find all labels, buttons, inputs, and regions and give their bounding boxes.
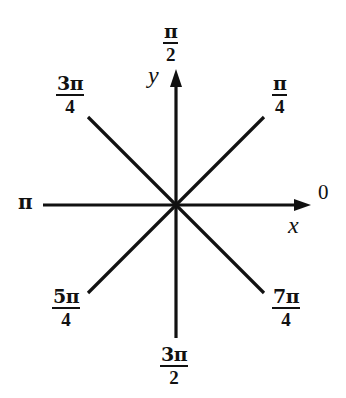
ray-pi-over-four bbox=[176, 117, 264, 205]
fraction-pi-over-two: π 2 bbox=[163, 22, 178, 64]
angle-label-pi: π bbox=[18, 192, 33, 212]
fraction-numerator: π bbox=[272, 74, 287, 96]
fraction-numerator: 3π bbox=[160, 345, 188, 367]
x-axis-arrowhead bbox=[294, 199, 311, 211]
y-axis-label: y bbox=[148, 63, 159, 87]
angle-label-pi-over-two: π 2 bbox=[163, 22, 178, 64]
fraction-denominator: 4 bbox=[65, 96, 75, 116]
fraction-numerator: π bbox=[163, 22, 178, 44]
fraction-five-pi-over-four: 5π 4 bbox=[52, 287, 80, 329]
angle-label-three-pi-over-four: 3π 4 bbox=[56, 74, 84, 116]
angle-label-zero: 0 bbox=[318, 182, 329, 203]
ray-five-pi-over-four bbox=[88, 205, 176, 293]
x-axis-label: x bbox=[288, 213, 299, 237]
fraction-three-pi-over-two: 3π 2 bbox=[160, 345, 188, 387]
fraction-seven-pi-over-four: 7π 4 bbox=[272, 287, 300, 329]
angle-label-five-pi-over-four: 5π 4 bbox=[52, 287, 80, 329]
y-axis-arrowhead bbox=[170, 69, 182, 87]
fraction-denominator: 4 bbox=[275, 96, 285, 116]
angle-label-three-pi-over-two: 3π 2 bbox=[160, 345, 188, 387]
fraction-numerator: 5π bbox=[52, 287, 80, 309]
fraction-pi-over-four: π 4 bbox=[272, 74, 287, 116]
ray-seven-pi-over-four bbox=[176, 205, 264, 293]
figure-canvas: π 2 3π 4 π 4 π 0 5π 4 7π 4 3 bbox=[0, 0, 346, 398]
angle-label-pi-over-four: π 4 bbox=[272, 74, 287, 116]
fraction-three-pi-over-four: 3π 4 bbox=[56, 74, 84, 116]
fraction-denominator: 4 bbox=[61, 309, 71, 329]
ray-three-pi-over-four bbox=[88, 117, 176, 205]
fraction-denominator: 4 bbox=[281, 309, 291, 329]
angle-label-seven-pi-over-four: 7π 4 bbox=[272, 287, 300, 329]
fraction-numerator: 7π bbox=[272, 287, 300, 309]
fraction-numerator: 3π bbox=[56, 74, 84, 96]
fraction-denominator: 2 bbox=[166, 44, 176, 64]
fraction-denominator: 2 bbox=[169, 367, 179, 387]
